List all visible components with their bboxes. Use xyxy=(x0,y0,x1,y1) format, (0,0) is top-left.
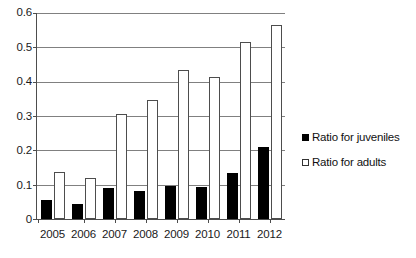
bar-juveniles-2010 xyxy=(196,187,207,219)
x-tickmark xyxy=(239,219,240,223)
bar-adults-2006 xyxy=(85,178,96,219)
bar-juveniles-2008 xyxy=(134,191,145,219)
y-tick-label: 0.2 xyxy=(0,145,32,157)
y-tick-label: 0.4 xyxy=(0,76,32,88)
y-tickmark xyxy=(33,47,37,48)
bar-group-2011 xyxy=(223,13,254,219)
bar-juveniles-2009 xyxy=(165,186,176,219)
y-tick-label: 0.5 xyxy=(0,42,32,54)
bar-group-2008 xyxy=(131,13,162,219)
bar-group-2009 xyxy=(162,13,193,219)
y-tickmark xyxy=(33,13,37,14)
bar-juveniles-2012 xyxy=(258,147,269,219)
bar-adults-2010 xyxy=(209,77,220,219)
bar-juveniles-2011 xyxy=(227,173,238,219)
y-tick-label: 0.6 xyxy=(0,7,32,19)
y-tick-label: 0 xyxy=(0,214,32,226)
bar-group-2006 xyxy=(69,13,100,219)
y-tickmark xyxy=(33,116,37,117)
x-tickmark xyxy=(208,219,209,223)
bar-group-2010 xyxy=(192,13,223,219)
bar-juveniles-2006 xyxy=(72,204,83,219)
x-tick-label: 2011 xyxy=(223,228,254,240)
x-tick-label: 2010 xyxy=(192,228,223,240)
bar-adults-2009 xyxy=(178,70,189,219)
bar-adults-2007 xyxy=(116,114,127,219)
x-tickmark xyxy=(38,219,39,223)
x-tick-label: 2009 xyxy=(161,228,192,240)
bar-adults-2008 xyxy=(147,100,158,219)
x-tick-label: 2007 xyxy=(99,228,130,240)
x-tickmark xyxy=(270,219,271,223)
y-tick-label: 0.3 xyxy=(0,111,32,123)
bar-groups xyxy=(38,13,285,219)
bar-group-2005 xyxy=(38,13,69,219)
legend-label: Ratio for adults xyxy=(312,156,386,168)
x-tickmark xyxy=(177,219,178,223)
bar-group-2012 xyxy=(254,13,285,219)
bar-chart: 0.6 0.5 0.4 0.3 0.2 0.1 0 20052006200720… xyxy=(0,0,416,258)
legend-item-adults: Ratio for adults xyxy=(302,156,414,168)
bar-adults-2012 xyxy=(271,25,282,219)
x-tick-label: 2012 xyxy=(254,228,285,240)
x-tickmark xyxy=(84,219,85,223)
x-tick-label: 2006 xyxy=(68,228,99,240)
bar-juveniles-2007 xyxy=(103,188,114,219)
legend-item-juveniles: Ratio for juveniles xyxy=(302,131,414,143)
x-tickmark xyxy=(115,219,116,223)
bar-group-2007 xyxy=(100,13,131,219)
x-axis-labels: 20052006200720082009201020112012 xyxy=(37,228,285,240)
x-tick-label: 2005 xyxy=(37,228,68,240)
legend-swatch-hollow-icon xyxy=(302,159,309,166)
y-tickmark xyxy=(33,150,37,151)
bar-adults-2005 xyxy=(54,172,65,219)
y-tick-label: 0.1 xyxy=(0,180,32,192)
plot-area xyxy=(36,13,285,220)
legend-swatch-filled-icon xyxy=(302,134,309,141)
bar-juveniles-2005 xyxy=(41,200,52,219)
legend-label: Ratio for juveniles xyxy=(312,131,400,143)
y-tickmark xyxy=(33,82,37,83)
x-tickmark xyxy=(146,219,147,223)
x-tick-label: 2008 xyxy=(130,228,161,240)
chart-legend: Ratio for juveniles Ratio for adults xyxy=(302,131,414,181)
bar-adults-2011 xyxy=(240,42,251,219)
y-tickmark xyxy=(33,219,37,220)
y-tickmark xyxy=(33,185,37,186)
